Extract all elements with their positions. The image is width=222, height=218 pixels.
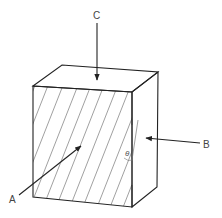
right-face (132, 72, 158, 207)
cube-diagram: θ C B A (0, 0, 222, 218)
arrow-b: B (146, 138, 210, 150)
arrow-a: A (9, 146, 81, 205)
angle-label: θ (125, 149, 130, 158)
angle-marker: θ (124, 120, 138, 185)
grain-hatching (0, 60, 175, 215)
arrow-c: C (93, 10, 100, 80)
label-c: C (93, 10, 100, 21)
top-face (33, 65, 158, 92)
label-a: A (9, 194, 16, 205)
label-b: B (203, 139, 210, 150)
